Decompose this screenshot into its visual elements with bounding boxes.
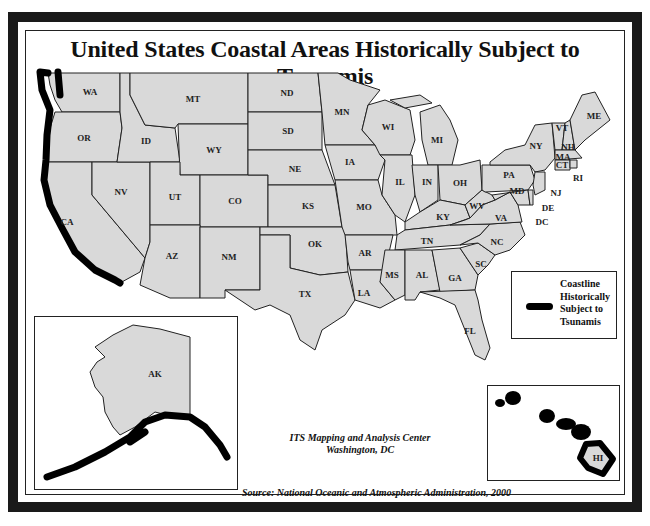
svg-text:AZ: AZ xyxy=(166,251,179,261)
svg-text:MD: MD xyxy=(510,186,525,196)
svg-text:LA: LA xyxy=(358,288,371,298)
svg-text:SC: SC xyxy=(475,259,487,269)
state-nj xyxy=(533,172,545,195)
svg-text:KS: KS xyxy=(302,201,314,211)
island-maui xyxy=(571,424,591,440)
svg-text:FL: FL xyxy=(464,326,476,336)
hawaii-map: HI xyxy=(488,386,621,482)
svg-text:ME: ME xyxy=(587,111,602,121)
svg-text:GA: GA xyxy=(448,273,462,283)
state-me xyxy=(570,92,610,150)
svg-text:NJ: NJ xyxy=(551,188,562,198)
legend-line-3: Subject to xyxy=(560,303,618,316)
svg-text:VT: VT xyxy=(556,123,569,133)
svg-text:IA: IA xyxy=(345,157,356,167)
svg-text:KY: KY xyxy=(436,212,450,222)
svg-text:MI: MI xyxy=(431,135,443,145)
svg-text:PA: PA xyxy=(503,170,515,180)
svg-text:WY: WY xyxy=(206,145,222,155)
island-oahu xyxy=(539,409,555,423)
svg-text:MS: MS xyxy=(385,270,399,280)
svg-text:NV: NV xyxy=(115,187,128,197)
legend: Coastline Historically Subject to Tsunam… xyxy=(511,271,617,339)
svg-text:WV: WV xyxy=(469,201,485,211)
svg-text:OK: OK xyxy=(308,239,322,249)
svg-text:IL: IL xyxy=(395,177,405,187)
state-ny xyxy=(490,123,555,172)
coastline-swatch xyxy=(526,303,553,310)
svg-text:DE: DE xyxy=(542,203,555,213)
state-fl xyxy=(420,290,490,360)
credit-block: ITS Mapping and Analysis Center Washingt… xyxy=(260,432,460,456)
svg-text:CA: CA xyxy=(61,217,74,227)
svg-text:CT: CT xyxy=(556,160,569,170)
svg-text:TX: TX xyxy=(299,289,312,299)
svg-text:UT: UT xyxy=(169,192,182,202)
island-niihau xyxy=(495,399,505,407)
svg-text:NH: NH xyxy=(561,142,575,152)
svg-text:RI: RI xyxy=(573,173,583,183)
svg-text:IN: IN xyxy=(422,177,433,187)
svg-text:NM: NM xyxy=(222,252,237,262)
island-kauai xyxy=(505,391,521,405)
legend-line-2: Historically xyxy=(560,291,618,304)
svg-text:MN: MN xyxy=(335,107,350,117)
svg-text:SD: SD xyxy=(282,126,294,136)
svg-text:AL: AL xyxy=(416,270,429,280)
legend-line-1: Coastline xyxy=(560,278,618,291)
state-nm xyxy=(200,227,260,298)
svg-text:WI: WI xyxy=(382,122,395,132)
alaska-map: AK xyxy=(35,317,239,491)
state-label-hi: HI xyxy=(593,453,604,463)
tsunami-coastline-puget xyxy=(58,72,60,95)
svg-text:NY: NY xyxy=(530,141,543,151)
legend-line-4: Tsunamis xyxy=(560,316,618,329)
svg-text:MT: MT xyxy=(186,94,201,104)
svg-text:NC: NC xyxy=(491,237,504,247)
state-label-ak: AK xyxy=(148,369,162,379)
source-note: Source: National Oceanic and Atmospheric… xyxy=(242,487,511,498)
legend-label: Coastline Historically Subject to Tsunam… xyxy=(560,278,618,328)
svg-text:WA: WA xyxy=(83,87,98,97)
svg-text:VA: VA xyxy=(495,213,507,223)
svg-text:CO: CO xyxy=(228,196,242,206)
credit-organization: ITS Mapping and Analysis Center xyxy=(260,432,460,444)
svg-text:OH: OH xyxy=(453,178,467,188)
svg-text:OR: OR xyxy=(77,133,91,143)
state-ri xyxy=(570,160,577,168)
hawaii-inset: HI xyxy=(487,385,620,481)
svg-text:MO: MO xyxy=(356,202,372,212)
svg-text:NE: NE xyxy=(289,164,302,174)
svg-text:ND: ND xyxy=(281,88,294,98)
svg-text:TN: TN xyxy=(421,236,434,246)
alaska-inset: AK xyxy=(34,316,238,490)
svg-text:DC: DC xyxy=(536,217,549,227)
svg-text:ID: ID xyxy=(141,136,152,146)
svg-text:AR: AR xyxy=(359,248,372,258)
credit-location: Washington, DC xyxy=(260,444,460,456)
